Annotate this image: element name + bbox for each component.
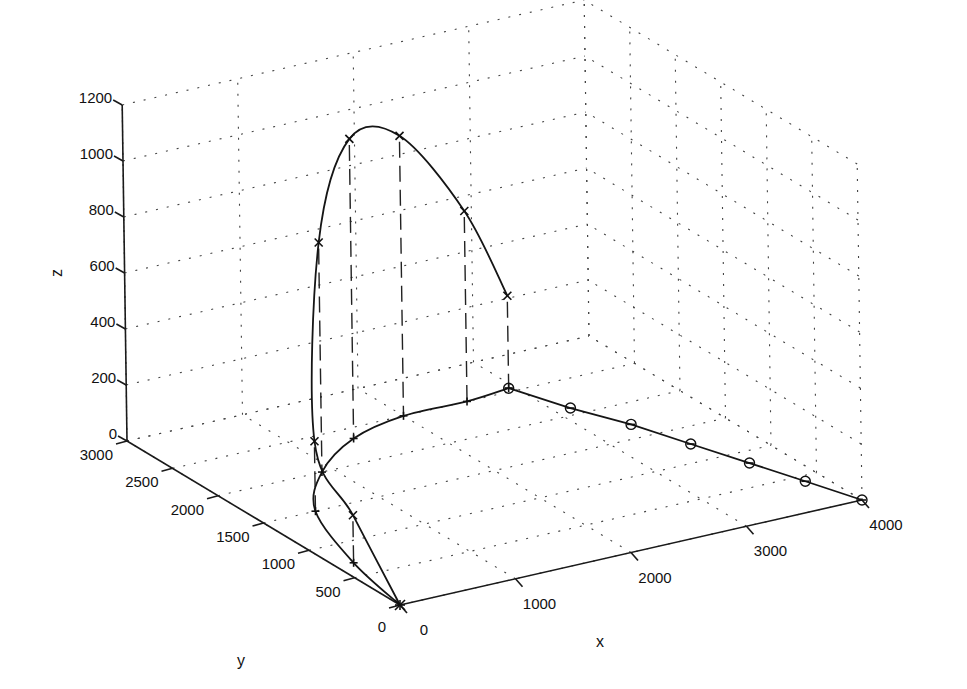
y-tick [253,523,264,526]
y-tick [298,550,309,553]
back-wall-grid-x [353,53,358,389]
x-axis-label: x [596,633,604,650]
back-wall-grid-z [125,224,587,329]
dropline [353,521,354,563]
grid-lines [122,0,862,605]
data-markers [310,132,867,610]
x-tick-label: 2000 [638,569,671,586]
z-tick [113,100,122,105]
z-tick-label: 200 [91,369,116,386]
z-tick [117,380,126,385]
floor-grid-y [309,445,771,550]
side-wall-grid-z [585,56,858,220]
z-tick-label: 800 [89,201,114,218]
side-wall-grid-y [812,137,817,473]
y-axis-label: y [237,652,245,669]
y-tick-label: 500 [315,583,340,600]
side-wall-grid-z [587,224,860,388]
side-wall-grid-z [586,112,859,276]
dropline [464,217,467,401]
floor-grid-x [474,362,747,526]
side-wall-grid-y [675,55,680,391]
data-curves [312,126,862,605]
floor-grid-y [218,391,680,496]
floor-grid-x [243,415,516,579]
y-tick [344,578,355,581]
y-tick-label: 2500 [125,473,158,490]
z-tick [116,324,125,329]
dropline [319,248,322,472]
z-tick [115,212,124,217]
back-wall-grid-x [584,0,589,336]
z-tick-label: 0 [109,425,117,442]
tick-labels: 0100020003000400005001000150020002500300… [79,89,903,638]
z-tick-label: 1200 [79,89,112,106]
z-tick-label: 400 [90,313,115,330]
back-wall-grid-z [125,168,587,273]
y-tick-label: 1000 [262,555,295,572]
side-wall-grid-y [721,82,726,418]
back-wall-grid-x [238,79,243,415]
projection-curve [313,388,508,605]
y-tick-label: 1500 [216,528,249,545]
floor-grid-y [264,418,726,523]
x-tick [516,579,523,587]
z-tick [114,156,123,161]
y-tick-label: 3000 [80,446,113,463]
x-tick-label: 0 [420,621,428,638]
y-tick [162,468,173,471]
dropline [400,142,404,416]
side-wall-grid-y [584,0,589,336]
back-wall-grid-z [122,0,584,105]
z-tick-label: 600 [90,257,115,274]
z-axis-label: z [48,269,65,277]
side-wall-grid-z [587,168,860,332]
floor-grid-y [355,473,817,578]
x-tick-label: 1000 [523,595,556,612]
dropline [314,447,315,511]
z-tick [118,436,127,441]
z-tick [116,268,125,273]
y-tick [116,441,127,444]
plot-3d: 0100020003000400005001000150020002500300… [0,0,967,689]
y-tick [207,496,218,499]
x-tick [631,553,638,561]
x-tick-label: 3000 [754,542,787,559]
x-tick [747,526,754,534]
dropline [349,145,353,439]
y-tick-label: 0 [378,618,386,635]
y-tick-label: 2000 [171,501,204,518]
z-tick-label: 1000 [80,145,113,162]
x-tick-label: 4000 [869,516,902,533]
trajectory-curve [312,126,508,605]
side-wall-grid-z [584,0,857,164]
dropline [507,302,508,388]
side-wall-grid-y [766,109,771,445]
